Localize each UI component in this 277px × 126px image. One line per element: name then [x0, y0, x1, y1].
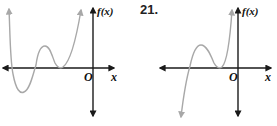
- right-y-axis-label: f(x): [242, 5, 259, 17]
- left-x-axis-label: x: [111, 70, 117, 85]
- problem-number: 21.: [140, 2, 158, 17]
- right-curve: [181, 10, 232, 117]
- graphs-canvas: [0, 0, 277, 126]
- right-graph: [160, 8, 271, 117]
- right-x-axis-label: x: [265, 70, 271, 85]
- left-origin-label: O: [84, 70, 93, 85]
- left-graph: [3, 8, 114, 116]
- left-y-axis-label: f(x): [97, 5, 114, 17]
- right-origin-label: O: [229, 70, 238, 85]
- left-curve: [9, 9, 81, 92]
